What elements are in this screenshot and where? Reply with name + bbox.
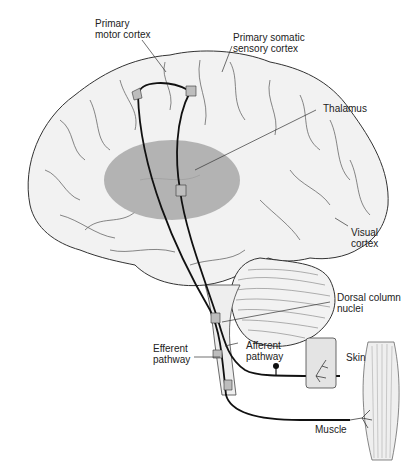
label-visual-cortex: Visual cortex: [351, 227, 378, 249]
cerebellum: [231, 258, 335, 346]
label-primary-somatic-sensory-cortex: Primary somatic sensory cortex: [233, 32, 305, 54]
brain-pathway-diagram: Primary motor cortex Primary somatic sen…: [0, 0, 414, 476]
label-efferent-pathway: Efferent pathway: [153, 343, 190, 365]
label-primary-motor-cortex: Primary motor cortex: [95, 18, 151, 40]
label-dorsal-column-nuclei: Dorsal column nuclei: [337, 292, 401, 314]
label-thalamus: Thalamus: [323, 103, 367, 114]
label-skin: Skin: [346, 352, 365, 363]
label-muscle: Muscle: [315, 424, 347, 435]
thalamus-region: [104, 140, 240, 220]
label-afferent-pathway: Afferent pathway: [246, 340, 283, 362]
